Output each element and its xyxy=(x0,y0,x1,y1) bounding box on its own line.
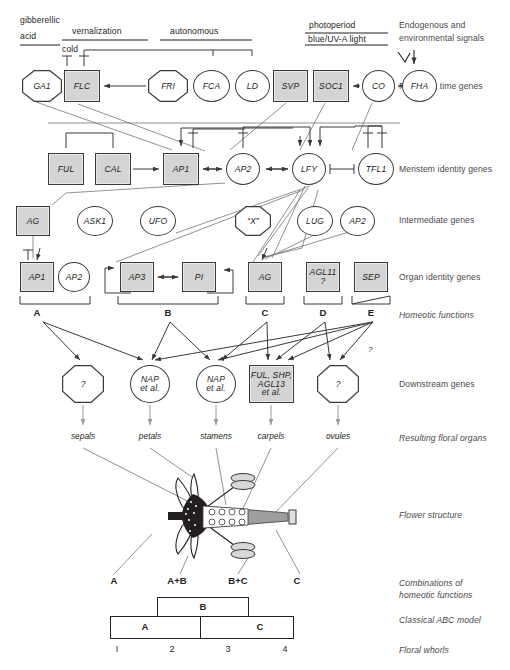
anther-lower xyxy=(231,543,255,559)
node-label-line: SEP xyxy=(362,273,380,282)
gene-node-sep[interactable]: SEP xyxy=(354,262,388,292)
rowlabel-meristem: Meristem identity genes xyxy=(399,164,492,174)
node-label-line: FLC xyxy=(74,82,91,91)
node-label-line: AP3 xyxy=(129,273,146,282)
gene-node-d1[interactable]: ? xyxy=(62,365,104,403)
floral-organ-ovules: ovules xyxy=(306,431,370,441)
floral-organ-carpels: carpels xyxy=(239,431,303,441)
node-label-line: AP1 xyxy=(29,273,46,282)
homeotic-function-c: C xyxy=(255,307,275,318)
gene-node-soc1[interactable]: SOC1 xyxy=(313,70,349,102)
node-label-line: AG xyxy=(259,273,272,282)
node-label-line: et al. xyxy=(206,384,226,393)
signal-blue-uv-light: blue/UV-A light xyxy=(308,34,366,44)
gene-node-agi[interactable]: AG xyxy=(16,206,50,236)
rowlabel-downstream: Downstream genes xyxy=(399,379,475,389)
gene-node-inner: FRI xyxy=(149,71,187,101)
gene-node-d4[interactable]: FUL, SHP,AGL13et al. xyxy=(249,365,294,403)
downstream-to-organs xyxy=(83,405,338,425)
gene-node-ap3[interactable]: AP3 xyxy=(120,262,154,292)
gene-node-pi[interactable]: PI xyxy=(182,262,216,292)
gene-node-ld[interactable]: LD xyxy=(235,70,270,102)
gene-node-cal[interactable]: CAL xyxy=(95,153,131,185)
signal-cold: cold xyxy=(62,44,78,54)
gene-node-ap1m[interactable]: AP1 xyxy=(163,153,199,185)
combination-a-plus-b: A+B xyxy=(159,575,195,586)
gene-node-ap1o[interactable]: AP1 xyxy=(20,262,54,292)
rowlabel-combinations-1: Combinations of xyxy=(399,578,463,588)
rowlabel-abc-model: Classical ABC model xyxy=(399,615,481,625)
gene-node-ap2m[interactable]: AP2 xyxy=(226,153,260,185)
homeotic-function-b: B xyxy=(158,307,178,318)
gene-node-co[interactable]: CO xyxy=(362,70,395,102)
gene-node-agl11[interactable]: AGL11? xyxy=(306,262,340,292)
flowering-to-meristem-diagonals xyxy=(36,102,372,151)
rowlabel-intermediate: Intermediate genes xyxy=(399,215,474,225)
gene-node-d5[interactable]: ? xyxy=(317,365,359,403)
gene-node-ap2i[interactable]: AP2 xyxy=(340,206,375,236)
signal-vernalization: vernalization xyxy=(72,26,122,36)
gene-node-svp[interactable]: SVP xyxy=(273,70,308,102)
floral-whorl-2: 2 xyxy=(162,644,182,654)
node-label-line: CO xyxy=(372,82,385,91)
gene-node-fca[interactable]: FCA xyxy=(193,70,230,102)
anther-upper xyxy=(231,474,255,490)
floral-whorl-I: I xyxy=(107,644,127,654)
abc-label-c: C xyxy=(245,621,275,632)
gene-node-inner: GA1 xyxy=(23,71,61,101)
rowlabel-flower-structure: Flower structure xyxy=(399,510,462,520)
gene-node-flc[interactable]: FLC xyxy=(64,70,100,102)
node-label-line: FHA xyxy=(411,82,429,91)
gene-node-d3[interactable]: NAPet al. xyxy=(196,365,236,403)
rowlabel-signals-1: Endogenous and xyxy=(399,20,465,30)
gene-node-ful[interactable]: FUL xyxy=(48,153,84,185)
gene-node-tfl1[interactable]: TFL1 xyxy=(358,153,394,185)
rowlabel-floral-organs: Resulting floral organs xyxy=(399,433,487,443)
homeotic-to-downstream xyxy=(43,322,373,360)
gene-node-x[interactable]: “X” xyxy=(235,206,271,236)
node-label-line: ? xyxy=(81,380,86,389)
node-label-line: AP2 xyxy=(66,273,83,282)
gene-node-inner: ? xyxy=(318,366,358,402)
node-label-line: LUG xyxy=(306,217,324,226)
gene-node-ga1[interactable]: GA1 xyxy=(22,70,62,102)
rowlabel-floral-whorls: Floral whorls xyxy=(399,645,449,655)
gene-node-d2[interactable]: NAPet al. xyxy=(130,365,170,403)
combination-b-plus-c: B+C xyxy=(220,575,256,586)
node-label-line: AG xyxy=(27,217,40,226)
gene-node-ufo[interactable]: UFO xyxy=(140,206,176,236)
homeotic-brackets xyxy=(20,296,390,304)
node-label-line: TFL1 xyxy=(366,165,387,174)
light-zigzag xyxy=(398,52,410,62)
node-label-line: UFO xyxy=(149,217,168,226)
node-label-line: AP2 xyxy=(349,217,366,226)
node-label-line: SOC1 xyxy=(319,82,343,91)
rowlabel-combinations-2: homeotic functions xyxy=(399,590,472,600)
cold-inhibition xyxy=(62,50,252,66)
rowlabel-signals-2: environmental signals xyxy=(399,33,484,43)
gene-node-ask1[interactable]: ASK1 xyxy=(77,206,113,236)
gene-node-lfy[interactable]: LFY xyxy=(292,153,326,185)
node-label-line: FRI xyxy=(161,82,175,91)
floral-whorl-3: 3 xyxy=(218,644,238,654)
gene-node-inner: ? xyxy=(63,366,103,402)
combination-a: A xyxy=(96,575,132,586)
floral-organ-petals: petals xyxy=(118,431,182,441)
node-label-line: LFY xyxy=(301,165,317,174)
node-label-line: et al. xyxy=(140,384,160,393)
organ-leaders xyxy=(83,448,338,520)
gene-node-ago[interactable]: AG xyxy=(248,262,282,292)
homeotic-function-d: D xyxy=(313,307,333,318)
combination-c: C xyxy=(279,575,315,586)
node-label-line: CAL xyxy=(104,165,121,174)
signal-gibberellic: gibberellic xyxy=(20,15,60,25)
rowlabel-organ: Organ identity genes xyxy=(399,272,480,282)
gene-node-ap2o[interactable]: AP2 xyxy=(58,262,90,292)
gene-node-lug[interactable]: LUG xyxy=(297,206,333,236)
node-label-line: “X” xyxy=(247,217,258,226)
floral-whorl-4: 4 xyxy=(275,644,295,654)
node-label-line: PI xyxy=(195,273,203,282)
gene-node-fha[interactable]: FHA xyxy=(402,70,437,102)
gene-node-fri[interactable]: FRI xyxy=(148,70,188,102)
abc-divider xyxy=(200,616,201,639)
